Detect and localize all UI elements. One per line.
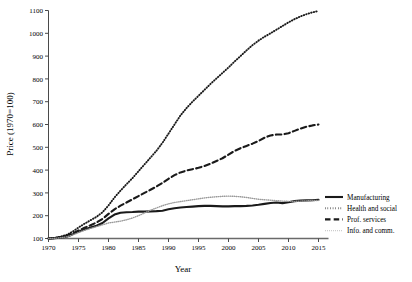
x-axis-title: Year [175, 264, 192, 274]
y-tick-label: 300 [33, 190, 44, 198]
series-line [49, 200, 319, 239]
series-line [49, 11, 319, 239]
y-tick-label: 1000 [29, 30, 44, 38]
x-tick-label: 1990 [162, 244, 177, 252]
y-tick-label: 700 [33, 98, 44, 106]
y-tick-label: 800 [33, 76, 44, 84]
x-tick-label: 1995 [192, 244, 207, 252]
y-tick-label: 500 [33, 144, 44, 152]
x-tick-label: 1975 [72, 244, 87, 252]
y-tick-label: 600 [33, 121, 44, 129]
legend-label-1: Manufacturing [347, 194, 390, 202]
x-tick-label: 1970 [42, 244, 57, 252]
x-tick-label: 2015 [312, 244, 327, 252]
legend-label-4: Info. and comm. [347, 227, 395, 235]
y-tick-label: 900 [33, 53, 44, 61]
y-axis-title: Price (1970=100) [5, 92, 15, 155]
y-tick-label: 400 [33, 167, 44, 175]
x-tick-label: 1985 [132, 244, 147, 252]
y-tick-label: 200 [33, 212, 44, 220]
figure-container: 10020030040050060070080090010001100 1970… [0, 0, 412, 282]
x-axis: 1970197519801985199019952000200520102015 [42, 239, 329, 253]
legend-label-2: Health and social [347, 205, 397, 213]
line-chart: 10020030040050060070080090010001100 1970… [0, 0, 412, 282]
y-axis: 10020030040050060070080090010001100 [29, 7, 49, 243]
x-tick-label: 1980 [102, 244, 117, 252]
y-tick-label: 1100 [29, 7, 43, 15]
chart-legend: ManufacturingHealth and socialProf. serv… [325, 194, 397, 236]
x-tick-label: 2005 [252, 244, 267, 252]
y-tick-label: 100 [33, 235, 44, 243]
data-series-group [49, 11, 319, 239]
legend-label-3: Prof. services [347, 216, 386, 224]
x-tick-label: 2000 [222, 244, 237, 252]
x-tick-label: 2010 [282, 244, 297, 252]
